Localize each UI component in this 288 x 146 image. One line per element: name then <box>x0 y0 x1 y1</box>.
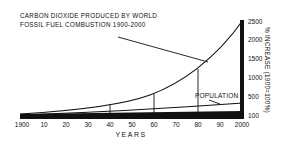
x-axis-bar <box>20 111 243 119</box>
x-tick: 50 <box>128 121 135 128</box>
population-leader-line <box>209 100 220 104</box>
co2-label-line1: CARBON DIOXIDE PRODUCED BY WORLD <box>20 12 157 19</box>
y-tick: 100 <box>248 112 259 119</box>
x-tick: 90 <box>216 121 223 128</box>
y-tick: 500 <box>248 93 259 100</box>
co2-leader-line <box>118 37 208 62</box>
co2-label-line2: FOSSIL FUEL COMBUSTION 1900-2000 <box>20 21 146 28</box>
y-tick: 1500 <box>248 55 262 62</box>
x-tick: 40 <box>106 121 113 128</box>
x-tick: 2000 <box>235 121 249 128</box>
x-tick: 1900 <box>15 121 29 128</box>
population-label: POPULATION <box>195 92 238 99</box>
y-tick: 2500 <box>248 18 262 25</box>
x-tick: 20 <box>62 121 69 128</box>
y-axis-bar <box>240 20 244 119</box>
x-tick: 80 <box>194 121 201 128</box>
y-tick: 2000 <box>248 36 262 43</box>
x-axis-label: YEARS <box>115 131 146 138</box>
x-tick: 10 <box>40 121 47 128</box>
x-tick: 60 <box>150 121 157 128</box>
y-tick: 1000 <box>248 74 262 81</box>
x-tick: 70 <box>172 121 179 128</box>
y-axis-label: % INCREASE (1900=100%) <box>264 27 271 113</box>
x-tick: 30 <box>84 121 91 128</box>
